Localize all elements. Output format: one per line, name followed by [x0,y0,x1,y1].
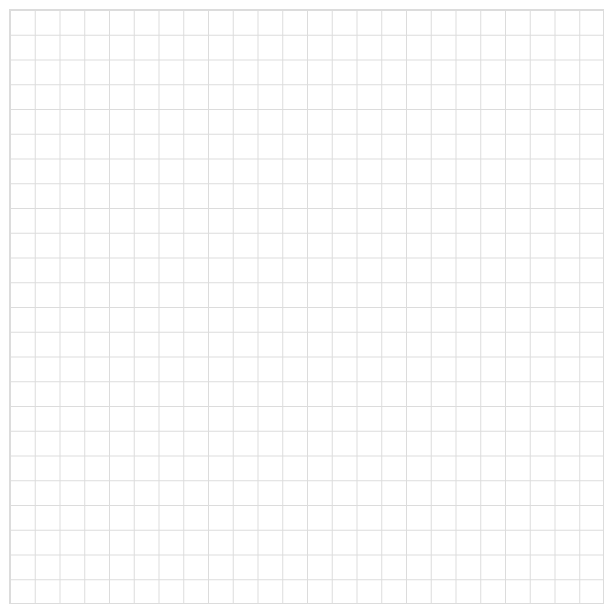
square-grid [9,9,603,603]
grid-right-border [603,9,604,604]
grid-bottom-border [9,603,604,604]
grid-canvas [0,0,612,613]
